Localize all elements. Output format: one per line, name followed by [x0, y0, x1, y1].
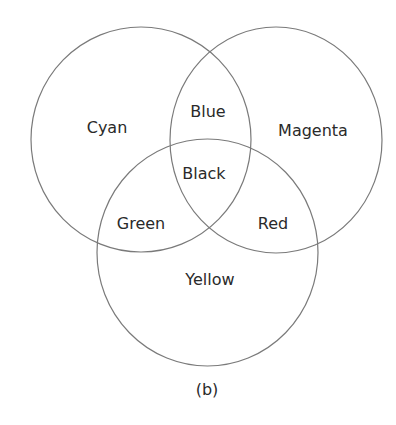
region-label-red: Red — [258, 214, 288, 233]
region-label-cyan: Cyan — [87, 118, 128, 137]
figure-caption: (b) — [196, 380, 219, 399]
region-label-black: Black — [182, 164, 226, 183]
region-label-magenta: Magenta — [278, 121, 348, 140]
region-label-blue: Blue — [190, 102, 225, 121]
venn-diagram: Cyan Blue Magenta Black Green Red Yellow… — [0, 0, 396, 425]
region-label-green: Green — [117, 214, 165, 233]
region-label-yellow: Yellow — [184, 270, 234, 289]
